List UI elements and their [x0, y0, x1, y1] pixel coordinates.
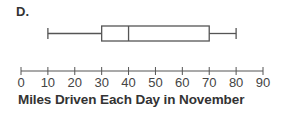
tick-label: 90	[256, 75, 270, 90]
tick-label: 50	[148, 75, 162, 90]
tick-label: 0	[17, 75, 24, 90]
tick-label: 20	[68, 75, 82, 90]
box-plot	[48, 26, 236, 41]
tick-label: 60	[175, 75, 189, 90]
number-line-axis: 0102030405060708090	[17, 67, 270, 90]
tick-label: 70	[202, 75, 216, 90]
tick-label: 80	[229, 75, 243, 90]
interquartile-box	[102, 26, 210, 41]
tick-label: 40	[121, 75, 135, 90]
tick-label: 30	[94, 75, 108, 90]
x-axis-title: Miles Driven Each Day in November	[18, 92, 244, 107]
tick-label: 10	[41, 75, 55, 90]
